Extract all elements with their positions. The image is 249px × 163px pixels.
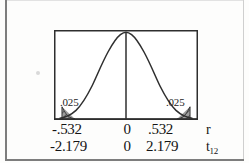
t-zero-value: 0 [112, 138, 142, 155]
t-negative-critical-value: -2.179 [50, 138, 112, 155]
r-positive-critical-value: .532 [148, 121, 206, 138]
r-negative-critical-value: -.532 [52, 121, 114, 138]
r-variable-symbol: r [206, 122, 210, 137]
t-distribution-figure: .025 .025 -.532 0 .532 r -2.179 0 2.179 … [0, 0, 249, 163]
right-tail-area-label: .025 [166, 97, 184, 108]
r-zero-value: 0 [112, 121, 142, 138]
page-rule-top [5, 0, 244, 1]
scan-speck-artifact [36, 71, 40, 75]
t-variable-subscript: 12 [210, 146, 218, 156]
t-scale-row: -2.179 0 2.179 t12 [0, 138, 249, 155]
t-positive-critical-value: 2.179 [146, 138, 204, 155]
left-tail-area-label: .025 [60, 97, 78, 108]
r-axis-variable-label: r [206, 121, 246, 138]
t-axis-variable-label: t12 [206, 138, 246, 160]
r-scale-row: -.532 0 .532 r [0, 121, 249, 138]
